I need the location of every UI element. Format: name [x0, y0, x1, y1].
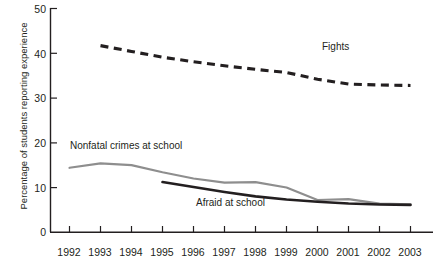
chart-container: Percentage of students reporting experie… — [0, 0, 441, 272]
series-line-fights — [101, 46, 411, 86]
series-annotation-nonfatal-crimes: Nonfatal crimes at school — [70, 140, 182, 152]
series-annotation-afraid: Afraid at school — [196, 197, 265, 209]
plot-area — [0, 0, 441, 272]
series-annotation-fights: Fights — [322, 41, 349, 53]
x-axis-ticks — [70, 226, 411, 232]
